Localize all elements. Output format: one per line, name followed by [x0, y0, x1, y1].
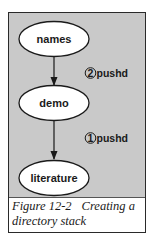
arrowhead-icon [51, 151, 58, 160]
figure: names demo literature 2 pushd 1 [8, 12, 146, 233]
node-label-names: names [37, 33, 72, 45]
step-number: 2 [88, 67, 94, 79]
node-literature: literature [19, 161, 89, 196]
step-command: pushd [97, 132, 129, 144]
step-2-pushd: 2 pushd [85, 67, 128, 80]
node-label-demo: demo [39, 97, 69, 109]
step-1-pushd: 1 pushd [85, 132, 128, 145]
node-names: names [19, 22, 89, 57]
caption-line-1: Figure 12-2Creating a [12, 199, 144, 214]
node-label-literature: literature [30, 172, 77, 184]
diagram-panel: names demo literature 2 pushd 1 [9, 13, 145, 198]
node-demo: demo [19, 86, 89, 121]
caption-title-part1: Creating a [82, 199, 135, 213]
figure-caption: Figure 12-2Creating a directory stack [12, 199, 144, 229]
directory-stack-diagram: names demo literature 2 pushd 1 [9, 13, 145, 197]
step-command: pushd [97, 67, 129, 79]
step-number: 1 [88, 132, 94, 144]
arrowhead-icon [51, 77, 58, 86]
caption-title-part2: directory stack [12, 214, 144, 229]
figure-number: Figure 12-2 [12, 199, 72, 213]
